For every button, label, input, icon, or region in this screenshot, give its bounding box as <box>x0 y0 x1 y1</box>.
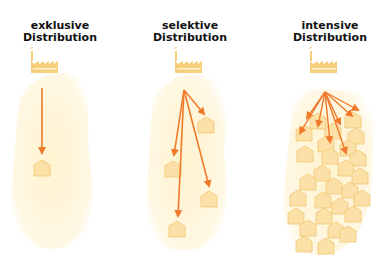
factory-icon <box>309 47 337 73</box>
factory-icon <box>174 47 202 73</box>
factory-icon <box>30 47 58 73</box>
distribution-diagram <box>0 0 381 261</box>
market-area-blob <box>12 73 93 249</box>
